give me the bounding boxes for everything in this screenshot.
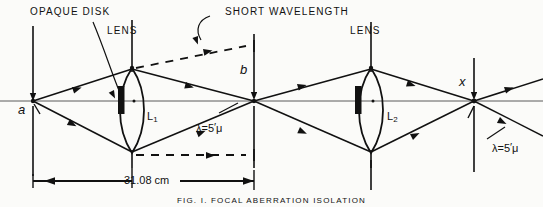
point-label-x: x bbox=[459, 74, 466, 89]
arrowhead-dashed-lower bbox=[206, 152, 215, 159]
lens-label-left: LENS bbox=[107, 25, 138, 36]
short-wavelength-arrowheads bbox=[203, 47, 215, 159]
lens2-top-node bbox=[369, 66, 373, 70]
ray-b-to-lens2-lower bbox=[254, 101, 371, 152]
point-b-dot bbox=[252, 99, 256, 103]
ray-lens2-to-x-lower bbox=[371, 101, 474, 152]
lens-2-label-subscript: 2 bbox=[393, 115, 397, 124]
lens-2 bbox=[355, 68, 383, 153]
dashed-ray-upper bbox=[136, 46, 246, 68]
ray-lens1-to-b-upper bbox=[132, 69, 254, 101]
ray-lens1-to-b-lower bbox=[132, 101, 254, 152]
ray-x-diverging-lower bbox=[474, 101, 543, 136]
lens-1-label-subscript: 1 bbox=[153, 115, 157, 124]
arrowhead-b-lower bbox=[297, 127, 308, 137]
lens-1 bbox=[118, 68, 144, 153]
ray-a-to-lens1-lower bbox=[33, 101, 132, 152]
diagram-canvas bbox=[0, 0, 543, 207]
tick-x-lower bbox=[468, 106, 474, 118]
ray-bundle-right bbox=[254, 69, 543, 152]
wavelength-right-unit: μ bbox=[512, 142, 518, 154]
dimension-arrowhead-right bbox=[243, 177, 254, 185]
opaque-disk-2 bbox=[355, 86, 362, 114]
figure-caption: FIG. I. FOCAL ABERRATION ISOLATION bbox=[0, 196, 543, 207]
arrowhead-dashed-upper bbox=[203, 47, 213, 55]
wavelength-right-prefix: λ=5 bbox=[492, 142, 510, 154]
wavelength-label-left: λ=5′μ bbox=[196, 121, 222, 134]
lens-2-center-dot bbox=[372, 100, 375, 103]
short-wavelength-label: SHORT WAVELENGTH bbox=[225, 6, 349, 17]
leader-lambda-right bbox=[487, 127, 505, 139]
leader-short-wavelength bbox=[198, 16, 210, 40]
point-a-dot bbox=[31, 99, 35, 103]
arrowhead-x-lower bbox=[497, 117, 508, 127]
dimension-arrowhead-left bbox=[44, 177, 55, 185]
lens-1-label: L1 bbox=[147, 110, 158, 124]
lens-1-center-dot bbox=[133, 100, 136, 103]
ray-b-to-lens2-upper bbox=[254, 69, 371, 101]
optics-ray-diagram: OPAQUE DISK LENS SHORT WAVELENGTH LENS a… bbox=[0, 0, 543, 207]
lens-2-outline bbox=[359, 68, 383, 153]
point-label-b: b bbox=[240, 62, 247, 77]
lens1-top-node bbox=[130, 66, 134, 70]
wavelength-left-prefix: λ=5 bbox=[196, 122, 214, 134]
ray-arrowheads-right bbox=[297, 80, 515, 140]
point-label-a: a bbox=[18, 102, 25, 117]
leader-opaque-disk-arrowhead bbox=[109, 90, 118, 100]
opaque-disk-label: OPAQUE DISK bbox=[30, 6, 110, 17]
wavelength-label-right: λ=5′μ bbox=[492, 141, 518, 154]
tick-a bbox=[34, 104, 40, 114]
lens-label-right: LENS bbox=[350, 25, 381, 36]
lens-2-label: L2 bbox=[387, 110, 398, 124]
wavelength-left-unit: μ bbox=[216, 122, 222, 134]
point-x-dot bbox=[472, 99, 477, 104]
dimension-label: 31.08 cm bbox=[124, 174, 169, 186]
